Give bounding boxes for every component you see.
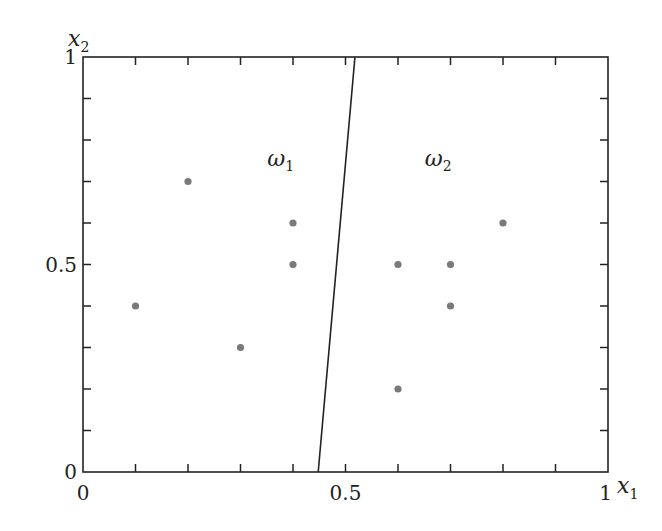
- data-point: [447, 302, 454, 309]
- x-tick-label: 0: [77, 481, 90, 505]
- data-point: [499, 219, 506, 226]
- data-point: [394, 385, 401, 392]
- axis-ticks: [83, 57, 608, 472]
- x-tick-label: 0.5: [330, 481, 362, 505]
- region-labels: ω1ω2: [267, 146, 451, 174]
- y-tick-label: 0: [64, 460, 77, 484]
- data-point: [289, 219, 296, 226]
- data-point: [184, 178, 191, 185]
- region-label: ω2: [425, 146, 452, 174]
- x-axis-label: x1: [617, 473, 638, 502]
- x-tick-label: 1: [599, 481, 612, 505]
- decision-boundary-line: [318, 57, 355, 472]
- tick-labels: 00.5100.51: [45, 45, 612, 505]
- data-point: [132, 302, 139, 309]
- scatter-chart: ω1ω2 00.5100.51 x2 x1: [0, 0, 662, 531]
- y-tick-label: 0.5: [45, 253, 77, 277]
- data-point: [394, 261, 401, 268]
- data-points: [132, 178, 507, 393]
- data-point: [237, 344, 244, 351]
- y-axis-label: x2: [68, 26, 89, 55]
- data-point: [289, 261, 296, 268]
- plot-frame: [83, 57, 608, 472]
- region-label: ω1: [267, 146, 294, 174]
- data-point: [447, 261, 454, 268]
